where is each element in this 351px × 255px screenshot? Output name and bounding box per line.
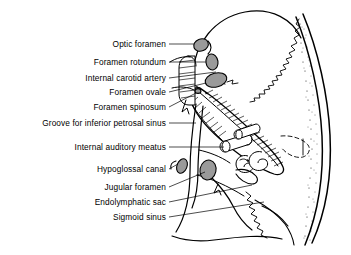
skull-base-illustration: [0, 0, 351, 255]
label-hypoglossal-canal: Hypoglossal canal: [97, 165, 166, 174]
label-endolymphatic-sac: Endolymphatic sac: [95, 198, 166, 207]
leader-sigmoid-sinus: [169, 202, 264, 217]
label-internal-carotid-artery: Internal carotid artery: [85, 74, 166, 83]
label-foramen-spinosum: Foramen spinosum: [93, 103, 166, 112]
label-sigmoid-sinus: Sigmoid sinus: [113, 213, 166, 222]
specimen-lower-edge: [172, 236, 282, 241]
jugular-foramen-shape: [198, 159, 218, 182]
foramen-spinosum-shape: [195, 89, 201, 94]
label-jugular-foramen: Jugular foramen: [105, 183, 166, 192]
diploe-band: [296, 14, 330, 245]
anatomy-figure-root: Optic foramen Foramen rotundum Internal …: [0, 0, 351, 255]
label-optic-foramen: Optic foramen: [113, 40, 166, 49]
diploe-stipple: [299, 24, 318, 241]
hypoglossal-canal-shape: [171, 157, 190, 175]
label-foramen-rotundum: Foramen rotundum: [94, 58, 166, 67]
hidden-canal-dashed: [281, 136, 309, 158]
foramen-rotundum-shape: [205, 53, 219, 71]
label-internal-auditory-meatus: Internal auditory meatus: [75, 143, 166, 152]
lambdoid-suture: [250, 19, 300, 102]
optic-foramen-shape: [192, 37, 211, 54]
label-foramen-ovale: Foramen ovale: [109, 88, 166, 97]
leader-jugular-foramen: [169, 172, 205, 187]
label-groove-inferior-petrosal-sinus: Groove for inferior petrosal sinus: [42, 119, 166, 128]
